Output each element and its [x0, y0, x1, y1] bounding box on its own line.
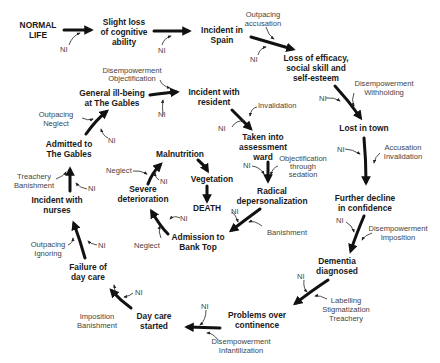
ni-label: NI — [297, 272, 305, 281]
svg-text:Invalidation: Invalidation — [384, 152, 422, 161]
svg-text:at The Gables: at The Gables — [85, 98, 140, 108]
svg-text:Incident with: Incident with — [188, 87, 239, 97]
svg-text:Day care: Day care — [137, 311, 172, 321]
node-severe-deterioration: Severe deterioration — [117, 184, 168, 204]
svg-text:started: started — [140, 321, 168, 331]
ni-label: NI — [88, 184, 96, 193]
node-failure-of-day-care: Failure of day care — [69, 262, 107, 282]
factor-outpacing-neglect: Outpacing — [39, 110, 74, 119]
svg-text:of cognitive: of cognitive — [101, 27, 148, 37]
ni-label: NI — [231, 207, 239, 216]
ni-label: NI — [336, 216, 344, 225]
svg-text:self-esteem: self-esteem — [293, 73, 339, 83]
ni-label: NI — [160, 177, 168, 186]
node-dementia-diagnosed: Dementia diagnosed — [316, 256, 358, 276]
ni-label: NI — [319, 94, 327, 103]
svg-text:DEATH: DEATH — [193, 203, 221, 213]
svg-text:depersonalization: depersonalization — [236, 196, 307, 206]
ni-label: NI — [60, 45, 68, 54]
svg-text:sedation: sedation — [289, 170, 318, 179]
ni-label: NI — [158, 110, 166, 119]
svg-text:social skill and: social skill and — [286, 63, 346, 73]
svg-text:Failure of: Failure of — [69, 262, 107, 272]
node-incident-spain: Incident in Spain — [201, 25, 243, 45]
svg-text:assessment: assessment — [239, 142, 287, 152]
node-incident-with-nurses: Incident with nurses — [31, 195, 82, 215]
svg-text:Admitted to: Admitted to — [46, 139, 93, 149]
node-incident-with-resident: Incident with resident — [188, 87, 239, 107]
svg-text:Taken into: Taken into — [242, 132, 283, 142]
svg-text:Incident with: Incident with — [31, 195, 82, 205]
svg-text:Vegetation: Vegetation — [191, 174, 233, 184]
svg-text:Radical: Radical — [257, 186, 287, 196]
node-further-decline: Further decline in confidence — [335, 193, 396, 213]
svg-text:Objectification: Objectification — [108, 74, 156, 83]
node-admitted-to-gables: Admitted to The Gables — [46, 139, 93, 159]
svg-text:NORMAL: NORMAL — [20, 20, 57, 30]
svg-text:Severe: Severe — [129, 184, 157, 194]
flow-diagram: NORMAL LIFE Slight loss of cognitive abi… — [0, 0, 440, 363]
factor-banishment: Banishment — [267, 228, 308, 237]
svg-text:Withholding: Withholding — [364, 88, 404, 97]
svg-text:General ill-being: General ill-being — [79, 88, 145, 98]
node-problems-continence: Problems over continence — [228, 310, 287, 330]
factor-imposition-banishment: Imposition — [80, 312, 115, 321]
factor-disempowerment-imposition: Disempowerment — [368, 224, 428, 233]
svg-text:day care: day care — [71, 272, 105, 282]
svg-text:Dementia: Dementia — [318, 256, 356, 266]
node-loss-of-efficacy: Loss of efficacy, social skill and self-… — [283, 53, 348, 83]
svg-text:The Gables: The Gables — [46, 149, 91, 159]
ni-label: NI — [108, 136, 116, 145]
svg-text:in confidence: in confidence — [338, 203, 392, 213]
ni-label: NI — [158, 46, 166, 55]
node-lost-in-town: Lost in town — [339, 123, 388, 133]
svg-text:Loss of efficacy,: Loss of efficacy, — [283, 53, 348, 63]
node-malnutrition: Malnutrition — [156, 149, 204, 159]
svg-text:Bank Top: Bank Top — [179, 242, 217, 252]
svg-text:accusation: accusation — [245, 19, 281, 28]
svg-text:Stigmatization: Stigmatization — [322, 305, 370, 314]
svg-text:deterioration: deterioration — [117, 194, 168, 204]
svg-text:Neglect: Neglect — [43, 119, 70, 128]
ni-label: NI — [337, 145, 345, 154]
factor-disempowerment-withholding: Disempowerment — [354, 79, 414, 88]
svg-text:Spain: Spain — [211, 35, 234, 45]
svg-text:Slight loss: Slight loss — [103, 17, 146, 27]
svg-text:ability: ability — [112, 37, 137, 47]
svg-text:Imposition: Imposition — [381, 233, 416, 242]
svg-text:Malnutrition: Malnutrition — [156, 149, 204, 159]
svg-text:Treachery: Treachery — [329, 314, 363, 323]
factor-labelling-stigmatization-treachery: Labelling — [331, 296, 361, 305]
ni-label: NI — [250, 55, 258, 64]
ni-label: NI — [243, 161, 251, 170]
svg-text:continence: continence — [235, 320, 280, 330]
node-admission-bank-top: Admission to Bank Top — [171, 232, 224, 252]
node-death: DEATH — [193, 203, 221, 213]
node-radical-depersonalization: Radical depersonalization — [236, 186, 307, 206]
ni-label: NI — [201, 302, 209, 311]
svg-text:nurses: nurses — [43, 205, 71, 215]
factor-neglect-malnutrition: Neglect — [106, 166, 133, 175]
ni-label: NI — [218, 124, 226, 133]
svg-text:Admission to: Admission to — [171, 232, 224, 242]
ni-label: NI — [135, 288, 143, 297]
node-normal-life: NORMAL LIFE — [20, 20, 57, 40]
svg-text:Lost in town: Lost in town — [339, 123, 388, 133]
svg-text:Banishment: Banishment — [77, 321, 118, 330]
factor-disempowerment-infantilization: Disempowerment — [211, 337, 271, 346]
svg-text:Infantilization: Infantilization — [219, 346, 263, 355]
factor-treachery-banishment: Treachery — [17, 172, 51, 181]
svg-text:Further decline: Further decline — [335, 193, 396, 203]
node-slight-loss: Slight loss of cognitive ability — [101, 17, 148, 47]
factor-outpacing-accusation: Outpacing — [246, 10, 281, 19]
factor-accusation-invalidation: Accusation — [384, 143, 421, 152]
svg-text:diagnosed: diagnosed — [316, 266, 358, 276]
svg-text:LIFE: LIFE — [29, 30, 48, 40]
factor-invalidation: Invalidation — [258, 101, 296, 110]
factor-outpacing-ignoring: Outpacing — [31, 240, 66, 249]
factor-neglect-bank-top: Neglect — [134, 241, 161, 250]
node-day-care-started: Day care started — [137, 311, 172, 331]
node-general-ill-being: General ill-being at The Gables — [79, 88, 145, 108]
ni-label: NI — [180, 214, 188, 223]
svg-text:resident: resident — [198, 97, 231, 107]
